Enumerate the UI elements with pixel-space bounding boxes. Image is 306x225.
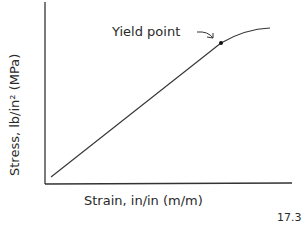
yield-point-marker (219, 41, 223, 45)
elastic-region-line (51, 43, 221, 177)
plastic-region-curve (221, 28, 270, 43)
x-axis-label: Strain, in/in (m/m) (84, 193, 203, 208)
figure-number: 17.3 (277, 211, 302, 224)
x-axis (45, 183, 292, 184)
y-axis-label: Stress, lb/in² (MPa) (7, 54, 22, 176)
yield-arrow-icon (197, 32, 213, 38)
yield-point-label: Yield point (112, 24, 180, 39)
